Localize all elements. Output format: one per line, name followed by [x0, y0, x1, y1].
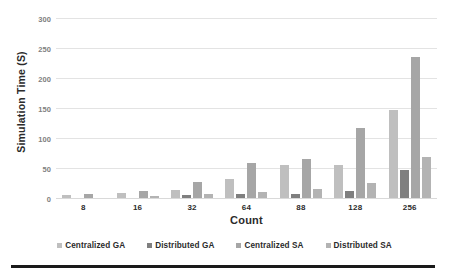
legend-swatch-icon [147, 243, 152, 248]
y-axis-tick-label: 150 [38, 105, 51, 114]
y-axis-tick-label: 300 [38, 15, 51, 24]
x-axis-baseline [56, 198, 437, 199]
legend-item[interactable]: Centralized SA [236, 241, 303, 250]
legend-label: Centralized SA [244, 241, 303, 250]
plot-area: 050100150200250300 [56, 19, 437, 199]
legend-label: Distributed SA [334, 241, 392, 250]
bar[interactable] [411, 57, 420, 199]
bar-group [165, 19, 219, 199]
figure: Simulation Time (S) 050100150200250300 8… [0, 0, 449, 275]
legend-swatch-icon [236, 243, 241, 248]
y-axis-tick-label: 200 [38, 75, 51, 84]
y-axis-tick-label: 50 [42, 165, 51, 174]
bar[interactable] [302, 159, 311, 199]
x-axis-tick-label: 256 [383, 203, 437, 212]
bar-chart: Simulation Time (S) 050100150200250300 8… [0, 0, 449, 232]
bar-group [328, 19, 382, 199]
bar-group [219, 19, 273, 199]
x-axis-tick-label: 128 [328, 203, 382, 212]
bar[interactable] [247, 163, 256, 199]
bar[interactable] [225, 179, 234, 199]
x-axis-tick-label: 64 [219, 203, 273, 212]
legend-item[interactable]: Centralized GA [57, 241, 125, 250]
x-axis-tick-label: 16 [110, 203, 164, 212]
bar-group [383, 19, 437, 199]
legend-swatch-icon [57, 243, 62, 248]
y-axis-tick-label: 100 [38, 135, 51, 144]
x-axis-tick-label: 8 [56, 203, 110, 212]
bar[interactable] [356, 128, 365, 199]
bar[interactable] [389, 110, 398, 199]
bottom-rule [11, 265, 435, 268]
x-axis-tick-label: 32 [165, 203, 219, 212]
x-axis-tick-label: 88 [274, 203, 328, 212]
bar[interactable] [422, 157, 431, 199]
legend: Centralized GADistributed GACentralized … [0, 241, 449, 250]
bar-group [110, 19, 164, 199]
bar[interactable] [280, 165, 289, 199]
bar[interactable] [193, 182, 202, 199]
legend-item[interactable]: Distributed SA [326, 241, 392, 250]
bar-groups [56, 19, 437, 199]
x-axis-title: Count [56, 214, 437, 226]
bar-group [56, 19, 110, 199]
y-axis-tick-label: 0 [47, 195, 51, 204]
y-axis-title: Simulation Time (S) [15, 27, 27, 177]
bar[interactable] [334, 165, 343, 199]
bar-group [274, 19, 328, 199]
legend-label: Distributed GA [155, 241, 214, 250]
y-axis-tick-label: 250 [38, 45, 51, 54]
bar[interactable] [400, 170, 409, 199]
bar[interactable] [367, 183, 376, 199]
legend-item[interactable]: Distributed GA [147, 241, 214, 250]
x-axis-tick-labels: 816326488128256 [56, 203, 437, 212]
legend-label: Centralized GA [65, 241, 125, 250]
legend-swatch-icon [326, 243, 331, 248]
